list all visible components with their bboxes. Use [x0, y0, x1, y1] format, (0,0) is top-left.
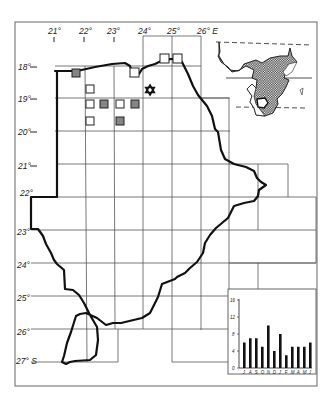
distribution-map: 21° 22° 23° 24° 25° 26° E 18° 19° 20° 21… — [0, 0, 332, 402]
chart-bar — [255, 338, 258, 368]
chart-bar — [243, 343, 246, 369]
record-open — [116, 100, 124, 108]
chart-bar — [273, 351, 276, 368]
lat-label-18: 18° — [18, 62, 31, 72]
record-open — [86, 85, 94, 93]
chart-bar — [297, 347, 300, 368]
chart-month-label: M — [291, 370, 295, 375]
africa-inset — [216, 42, 312, 116]
chart-bar — [249, 338, 252, 368]
lat-label-26: 26° — [16, 327, 30, 337]
latitude-labels: 18° 19° 20° 21° 22° 23° 24° 25° 26° 27° … — [15, 62, 37, 366]
chart-bar — [279, 334, 282, 368]
chart-month-label: S — [255, 370, 258, 375]
chart-bar — [291, 347, 294, 368]
record-open — [86, 100, 94, 108]
longitude-labels: 21° 22° 23° 24° 25° 26° E — [47, 26, 218, 42]
chart-month-label: M — [303, 370, 307, 375]
record-open — [130, 68, 139, 77]
chart-month-label: F — [285, 370, 288, 375]
lat-label-21: 21° — [17, 161, 31, 171]
record-hatched — [100, 100, 108, 108]
chart-bar — [303, 347, 306, 368]
lat-label-24: 24° — [16, 260, 30, 270]
record-hatched — [131, 100, 139, 108]
chart-month-label: A — [248, 370, 252, 375]
lon-label-25: 25° — [166, 26, 180, 36]
svg-text:16: 16 — [230, 298, 236, 303]
madagascar-outline — [300, 88, 303, 95]
svg-text:12: 12 — [230, 315, 236, 320]
lon-label-24: 24° — [137, 26, 151, 36]
type-locality-star-icon — [146, 85, 155, 95]
lat-label-19: 19° — [18, 94, 31, 104]
lat-label-20: 20° — [17, 127, 31, 137]
record-open — [173, 54, 182, 63]
chart-bar — [285, 355, 288, 368]
chart-month-label: A — [296, 370, 300, 375]
lon-label-22: 22° — [78, 26, 92, 36]
lat-label-25: 25° — [16, 293, 30, 303]
lon-label-23: 23° — [106, 26, 120, 36]
record-open — [160, 54, 169, 63]
chart-bar — [267, 326, 270, 369]
phenology-chart: 0 4 8 12 16 JASONDJFMAMJ — [228, 289, 316, 375]
chart-bar — [309, 343, 312, 369]
chart-frame — [228, 289, 316, 374]
record-hatched — [72, 69, 80, 77]
chart-month-label: O — [261, 370, 265, 375]
record-hatched — [116, 117, 124, 125]
lat-label-23: 23° — [16, 227, 30, 237]
lat-label-27: 27° S — [15, 356, 37, 366]
lon-label-26: 26° E — [196, 26, 218, 36]
record-open — [86, 117, 94, 125]
lon-label-21: 21° — [47, 26, 61, 36]
chart-bar — [261, 347, 264, 368]
